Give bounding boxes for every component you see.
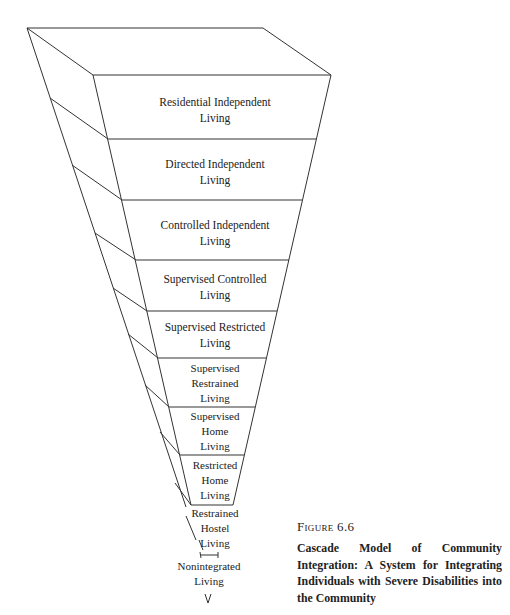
level-1-line2: Living	[140, 110, 290, 126]
level-8-line1: Restricted	[160, 458, 270, 473]
level-9-line3: Living	[160, 536, 270, 551]
level-7-line2: Home	[160, 424, 270, 439]
level-2-line1: Directed Independent	[140, 156, 290, 172]
level-3-line2: Living	[140, 233, 290, 249]
level-4-label: Supervised Controlled Living	[140, 271, 290, 303]
level-8-line3: Living	[160, 488, 270, 503]
level-7-line3: Living	[160, 439, 270, 454]
level-7-line1: Supervised	[160, 409, 270, 424]
level-10-line2: Living	[150, 574, 268, 589]
level-4-line2: Living	[140, 287, 290, 303]
level-1-line1: Residential Independent	[140, 94, 290, 110]
level-5-line1: Supervised Restricted	[140, 319, 290, 335]
level-9-label: Restrained Hostel Living	[160, 506, 270, 551]
level-2-label: Directed Independent Living	[140, 156, 290, 188]
level-4-line1: Supervised Controlled	[140, 271, 290, 287]
level-7-label: Supervised Home Living	[160, 409, 270, 454]
level-6-line2: Restrained	[160, 376, 270, 391]
figure-number: Figure 6.6	[297, 519, 502, 535]
level-6-line3: Living	[160, 391, 270, 406]
level-9-line1: Restrained	[160, 506, 270, 521]
level-3-line1: Controlled Independent	[140, 217, 290, 233]
level-8-label: Restricted Home Living	[160, 458, 270, 503]
level-5-line2: Living	[140, 335, 290, 351]
level-8-line2: Home	[160, 473, 270, 488]
level-10-label: Nonintegrated Living	[150, 559, 268, 589]
level-6-label: Supervised Restrained Living	[160, 361, 270, 406]
level-1-label: Residential Independent Living	[140, 94, 290, 126]
level-10-line1: Nonintegrated	[150, 559, 268, 574]
level-3-label: Controlled Independent Living	[140, 217, 290, 249]
level-5-label: Supervised Restricted Living	[140, 319, 290, 351]
funnel-top-face	[27, 28, 331, 75]
level-2-line2: Living	[140, 172, 290, 188]
level-6-line1: Supervised	[160, 361, 270, 376]
level-9-line2: Hostel	[160, 521, 270, 536]
figure-title: Cascade Model of Community Integration: …	[297, 540, 502, 606]
figure-caption: Figure 6.6 Cascade Model of Community In…	[297, 519, 502, 606]
